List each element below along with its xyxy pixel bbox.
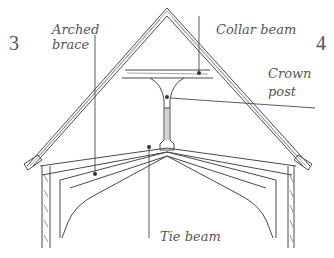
diagram-canvas: 3 4 Arched brace Collar beam Crown post … (0, 0, 334, 258)
label-tie-beam: Tie beam (160, 229, 221, 244)
crown-post (150, 78, 184, 150)
left-arched-brace (60, 152, 167, 238)
left-wall (42, 166, 50, 248)
right-wall (288, 166, 294, 248)
page-number-left: 3 (9, 33, 19, 53)
truss-drawing (0, 0, 334, 258)
label-crown-post-line2: post (268, 84, 296, 99)
label-collar-beam: Collar beam (216, 22, 296, 37)
page-number-right: 4 (316, 33, 326, 53)
label-arched-brace-line2: brace (52, 37, 89, 52)
label-arched-brace-line1: Arched (52, 22, 99, 37)
right-arched-brace (167, 152, 276, 238)
label-crown-post-line1: Crown (268, 66, 312, 81)
